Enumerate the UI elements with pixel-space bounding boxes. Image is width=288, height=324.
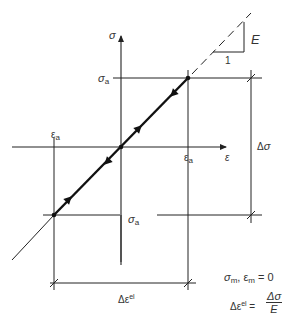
- mean-zero-equation: σm, εm = 0: [224, 272, 274, 286]
- delta-eps-el-label: Δεel: [118, 291, 135, 305]
- delta-eps-symbol: Δε: [230, 301, 241, 312]
- elastic-line-extension: [12, 215, 54, 260]
- subscript-a: a: [105, 77, 109, 86]
- sigma-a-bottom-label: σa: [128, 214, 139, 228]
- epsilon-axis-label: ε: [225, 152, 229, 163]
- delta-eps-symbol: Δε: [118, 294, 129, 305]
- slope-1-label: 1: [225, 55, 231, 66]
- sigma-symbol: σ: [98, 72, 105, 84]
- elastic-line-dashed: [192, 13, 251, 74]
- sigma-symbol: σ: [128, 213, 135, 225]
- point-min: [52, 213, 57, 218]
- equals-sign: =: [247, 301, 256, 312]
- point-origin: [119, 145, 124, 150]
- equals-zero: = 0: [255, 271, 274, 283]
- delta-sigma-label: Δσ: [257, 141, 270, 152]
- fraction-delta-sigma-over-E: Δσ E: [266, 290, 282, 315]
- sigma-a-top-label: σa: [98, 73, 109, 87]
- superscript-el: el: [129, 293, 134, 300]
- subscript-a: a: [188, 156, 192, 165]
- sigma-symbol: σ: [224, 271, 231, 283]
- slope-E-label: E: [251, 34, 260, 45]
- denominator: E: [266, 303, 282, 315]
- subscript-a: a: [135, 218, 139, 227]
- point-max: [186, 76, 191, 81]
- subscript-a: a: [55, 133, 59, 142]
- slope-triangle: [213, 22, 244, 52]
- eps-a-left-label: εa: [51, 129, 60, 143]
- subscript-m: m: [248, 276, 255, 285]
- eps-a-right-label: εa: [184, 152, 193, 166]
- numerator: Δσ: [266, 290, 282, 303]
- delta-eps-el-equation-lhs: Δεel =: [230, 298, 255, 312]
- sigma-axis-label: σ: [109, 30, 116, 41]
